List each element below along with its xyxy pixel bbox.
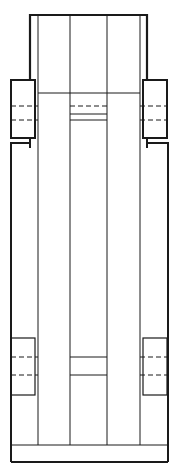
lower-right-clamp [143,338,167,395]
technical-drawing [0,0,182,466]
lower-left-clamp [11,338,35,395]
upper-right-clamp [143,80,167,138]
body-outline-left [11,143,30,462]
upper-left-clamp [11,80,35,138]
top-outer-frame [30,15,147,80]
body-outline-right [147,143,168,462]
